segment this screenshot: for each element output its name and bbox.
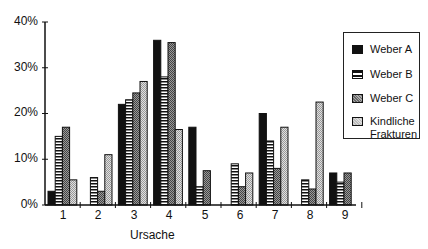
bar: [316, 102, 323, 205]
y-tick-label: 0%: [2, 197, 38, 211]
bar: [337, 182, 344, 205]
bar: [90, 178, 97, 205]
legend-item-weber-b: Weber B: [352, 68, 413, 81]
bar: [48, 191, 55, 205]
legend-item-weber-a: Weber A: [352, 43, 412, 56]
bar: [238, 187, 245, 205]
x-tick-label: 8: [300, 208, 320, 222]
legend-item-kindliche-frakturen: Kindliche Frakturen: [352, 115, 417, 141]
bar: [344, 173, 351, 205]
bar: [133, 93, 140, 205]
bar: [309, 189, 316, 205]
bar: [330, 173, 337, 205]
bar: [62, 127, 69, 205]
x-tick-label: 9: [335, 208, 355, 222]
y-tick-label: 20%: [2, 105, 38, 119]
light-dotted-swatch-icon: [352, 117, 363, 126]
x-tick-label: 3: [124, 208, 144, 222]
x-tick-label: 5: [195, 208, 215, 222]
dark-dotted-swatch-icon: [352, 94, 363, 103]
solid-black-swatch-icon: [352, 45, 363, 54]
bar: [105, 155, 112, 205]
legend-label: Weber C: [370, 92, 413, 105]
bar: [140, 81, 147, 205]
bar: [274, 168, 281, 205]
bar: [154, 40, 161, 205]
bar: [55, 136, 62, 205]
bar: [302, 180, 309, 205]
legend-item-weber-c: Weber C: [352, 92, 413, 105]
bar: [266, 141, 273, 205]
x-axis-title: Ursache: [130, 228, 174, 242]
bar: [98, 191, 105, 205]
bar: [70, 180, 77, 205]
y-tick-label: 10%: [2, 151, 38, 165]
bar: [175, 130, 182, 205]
bar: [189, 127, 196, 205]
y-tick-label: 40%: [2, 14, 38, 28]
bar: [281, 127, 288, 205]
bar: [161, 77, 168, 205]
bar: [118, 104, 125, 205]
y-tick-label: 30%: [2, 60, 38, 74]
x-tick-label: 4: [159, 208, 179, 222]
bar: [203, 171, 210, 205]
x-tick-label: 1: [53, 208, 73, 222]
x-tick-label: 2: [88, 208, 108, 222]
bars-group: [48, 40, 351, 205]
bar: [246, 173, 253, 205]
bar: [196, 187, 203, 205]
bar: [168, 43, 175, 205]
striped-swatch-icon: [352, 70, 363, 79]
x-tick-label: 7: [265, 208, 285, 222]
x-tick-label: 6: [230, 208, 250, 222]
legend-label: Weber A: [370, 43, 412, 56]
legend: Weber A Weber B Weber C Kindliche Fraktu…: [343, 32, 420, 139]
legend-label: Kindliche Frakturen: [370, 115, 417, 141]
bar: [231, 164, 238, 205]
bar: [259, 114, 266, 206]
bar: [126, 100, 133, 205]
legend-label: Weber B: [370, 68, 413, 81]
